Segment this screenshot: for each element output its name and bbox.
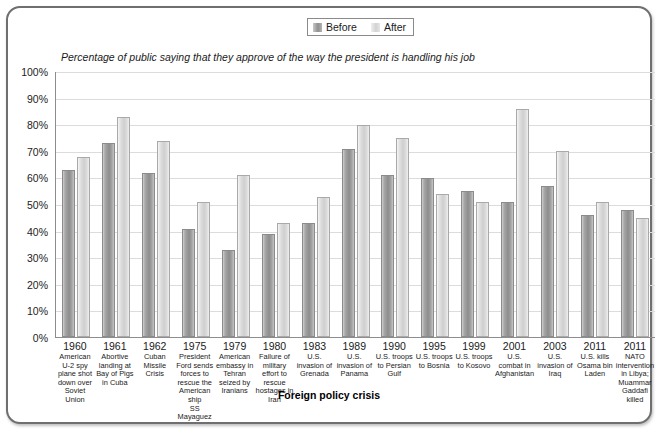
legend-item-after: After xyxy=(371,21,406,33)
x-category-label: 1999U.S. troops to Kosovo xyxy=(454,340,494,436)
x-category-year: 2011 xyxy=(616,340,654,352)
bar-group xyxy=(535,72,575,337)
x-category-description: U.S. troops to Persian Gulf xyxy=(375,353,413,379)
bar-group xyxy=(176,72,216,337)
x-category-year: 1961 xyxy=(96,340,134,352)
legend-swatch-icon-after xyxy=(371,23,380,32)
x-category-year: 1962 xyxy=(136,340,174,352)
x-category-label: 1980Failure of military effort to rescue… xyxy=(255,340,295,436)
y-tick-label: 40% xyxy=(27,226,48,238)
bar-before[interactable] xyxy=(461,191,474,337)
bar-group xyxy=(376,72,416,337)
bar-before[interactable] xyxy=(421,178,434,337)
x-category-description: U.S. kills Osama bin Laden xyxy=(576,353,614,379)
x-category-label: 1995U.S. troops to Bosnia xyxy=(414,340,454,436)
bar-group xyxy=(575,72,615,337)
bar-after[interactable] xyxy=(77,157,90,337)
legend-label-before: Before xyxy=(326,21,357,33)
x-axis-labels: 1960American U-2 spy plane shot down ove… xyxy=(55,340,655,436)
bar-after[interactable] xyxy=(237,175,250,337)
bar-after[interactable] xyxy=(317,197,330,337)
x-axis-title: Foreign policy crisis xyxy=(8,389,650,401)
y-axis-labels: 100%90%80%70%60%50%40%30%20%10%0% xyxy=(8,66,52,342)
bar-after[interactable] xyxy=(396,138,409,337)
bar-after[interactable] xyxy=(357,125,370,337)
bar-group xyxy=(256,72,296,337)
bar-before[interactable] xyxy=(342,149,355,337)
bar-group xyxy=(216,72,256,337)
legend-item-before: Before xyxy=(313,21,357,33)
bar-before[interactable] xyxy=(182,229,195,337)
bar-before[interactable] xyxy=(62,170,75,337)
bar-before[interactable] xyxy=(142,173,155,337)
bar-after[interactable] xyxy=(277,223,290,337)
x-category-description: U.S. combat in Afghanistan xyxy=(495,353,534,379)
x-category-year: 2011 xyxy=(576,340,614,352)
x-category-label: 2011U.S. kills Osama bin Laden xyxy=(575,340,615,436)
bar-after[interactable] xyxy=(636,218,649,337)
x-category-label: 1960American U-2 spy plane shot down ove… xyxy=(55,340,95,436)
x-category-label: 1962Cuban Missile Crisis xyxy=(135,340,175,436)
x-category-description: U.S. invasion of Grenada xyxy=(295,353,333,379)
y-tick-label: 20% xyxy=(27,279,48,291)
bar-after[interactable] xyxy=(476,202,489,337)
x-category-description: U.S. troops to Kosovo xyxy=(455,353,493,370)
x-category-year: 1990 xyxy=(375,340,413,352)
legend-label-after: After xyxy=(384,21,406,33)
y-tick-label: 30% xyxy=(27,252,48,264)
bar-groups xyxy=(56,72,655,337)
bar-group xyxy=(495,72,535,337)
x-category-label: 1989U.S. invasion of Panama xyxy=(334,340,374,436)
x-category-year: 1975 xyxy=(176,340,214,352)
y-tick-label: 70% xyxy=(27,146,48,158)
y-tick-label: 50% xyxy=(27,199,48,211)
bar-after[interactable] xyxy=(596,202,609,337)
x-category-description-italic: SS Mayaguez xyxy=(176,405,214,422)
x-category-label: 1990U.S. troops to Persian Gulf xyxy=(374,340,414,436)
x-category-year: 2001 xyxy=(495,340,534,352)
x-category-label: 1975President Ford sends forces to rescu… xyxy=(175,340,215,436)
y-tick-label: 60% xyxy=(27,172,48,184)
bar-before[interactable] xyxy=(222,250,235,337)
bar-group xyxy=(136,72,176,337)
bar-before[interactable] xyxy=(501,202,514,337)
bar-group xyxy=(56,72,96,337)
bar-group xyxy=(415,72,455,337)
bar-after[interactable] xyxy=(117,117,130,337)
bar-after[interactable] xyxy=(157,141,170,337)
bar-before[interactable] xyxy=(381,175,394,337)
bar-group xyxy=(615,72,655,337)
bar-before[interactable] xyxy=(102,143,115,337)
bar-after[interactable] xyxy=(197,202,210,337)
x-category-label: 2001U.S. combat in Afghanistan xyxy=(494,340,535,436)
bar-before[interactable] xyxy=(262,234,275,337)
bar-before[interactable] xyxy=(302,223,315,337)
x-category-year: 1995 xyxy=(415,340,453,352)
x-category-year: 1989 xyxy=(335,340,373,352)
x-category-label: 1961Abortive landing at Bay of Pigs in C… xyxy=(95,340,135,436)
bar-after[interactable] xyxy=(556,151,569,337)
y-tick-label: 100% xyxy=(21,66,48,78)
x-category-description: U.S. troops to Bosnia xyxy=(415,353,453,370)
y-tick-label: 10% xyxy=(27,305,48,317)
chart-subtitle: Percentage of public saying that they ap… xyxy=(61,51,475,63)
legend-swatch-icon-before xyxy=(313,23,322,32)
bar-after[interactable] xyxy=(436,194,449,337)
bar-before[interactable] xyxy=(621,210,634,337)
x-category-label: 1983U.S. invasion of Grenada xyxy=(294,340,334,436)
y-tick-label: 80% xyxy=(27,119,48,131)
bar-after[interactable] xyxy=(516,109,529,337)
x-category-year: 1960 xyxy=(56,340,94,352)
bar-before[interactable] xyxy=(581,215,594,337)
x-category-label: 2011NATO intervention in Libya; Muammar … xyxy=(615,340,655,436)
x-category-year: 2003 xyxy=(536,340,574,352)
x-category-year: 1983 xyxy=(295,340,333,352)
x-category-year: 1979 xyxy=(216,340,254,352)
x-category-description: Cuban Missile Crisis xyxy=(136,353,174,379)
x-category-description: U.S. invasion of Iraq xyxy=(536,353,574,379)
bar-before[interactable] xyxy=(541,186,554,337)
x-category-year: 1980 xyxy=(256,340,294,352)
bar-group xyxy=(455,72,495,337)
y-tick-label: 0% xyxy=(33,332,48,344)
y-tick-label: 90% xyxy=(27,93,48,105)
